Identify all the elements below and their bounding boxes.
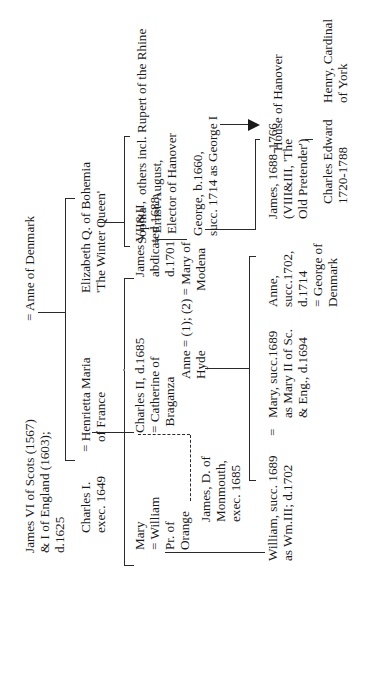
modena-child-bar (255, 140, 256, 230)
marriage-sign: = (265, 429, 280, 436)
mary-orange-node: Mary = William Pr. of Orange (132, 497, 192, 550)
henrietta-maria-node: = Henrietta Maria of France (78, 357, 108, 452)
root-marriage-line (38, 312, 65, 313)
charles-edward-node: Charles Edward 1720-1788 (320, 119, 350, 204)
charles-ii-node: Charles II, d.1685 = Catherine of Bragan… (132, 338, 177, 433)
mary-ii-drop (249, 480, 256, 481)
mary-drop (124, 565, 134, 566)
anne-drop (249, 256, 256, 257)
charles-i-node: Charles I. exec. 1649 (78, 476, 108, 533)
elizabeth-child-line (98, 222, 124, 223)
james-ii-spouses: Anne = (1); (2) = Mary of Hyde Modena (178, 242, 208, 379)
henry-york-node: Henry, Cardinal of York (320, 19, 350, 103)
elizabeth-drop (65, 198, 75, 199)
monmouth-node: James, D. of Monmouth, exec. 1685 (198, 456, 243, 522)
sophia-marriage-line (156, 239, 186, 240)
mary-ii-node: Mary, succ.1689 as Mary II of Sc. & Eng.… (265, 329, 310, 418)
charles-i-drop (65, 460, 75, 461)
arrow-right-icon (248, 119, 260, 131)
hyde-children-bar (249, 256, 250, 481)
hanover-arrow-shaft (220, 124, 250, 125)
anne-of-denmark-node: = Anne of Denmark (22, 216, 37, 321)
monmouth-dashed-line (190, 435, 191, 501)
mary-william-line (165, 552, 265, 553)
james-vi-node: James VI of Scots (1567) & I of England … (22, 419, 67, 553)
george-i-node: George, b.1660, succ. 1714 as George I (190, 116, 220, 236)
others-drop (124, 136, 130, 137)
anne-node: Anne, succ.1702, d.1714 = George of Denm… (265, 243, 340, 307)
stuart-heirs-line (305, 139, 313, 140)
james-ii-drop (124, 278, 134, 279)
elizabeth-node: Elizabeth Q. of Bohemia 'The Winter Quee… (78, 162, 108, 293)
house-of-hanover-node: House of Hanover (270, 54, 285, 151)
illegitimate-line (138, 434, 190, 435)
charles-i-marriage-line (92, 432, 124, 433)
gen3-stuart-bar (124, 278, 125, 566)
others-node: others incl. Rupert of the Rhine (134, 29, 149, 195)
gen2-sibling-bar (65, 198, 66, 461)
palatine-bar (124, 137, 125, 247)
family-tree-diagram: James VI of Scots (1567) & I of England … (0, 0, 380, 681)
print-speck (123, 370, 125, 372)
hyde-marriage-line (205, 368, 249, 369)
sophia-drop (124, 246, 130, 247)
william-iii-node: William, succ. 1689 as Wm.III; d.1702 (265, 455, 295, 561)
old-pretender-drop (255, 139, 260, 140)
